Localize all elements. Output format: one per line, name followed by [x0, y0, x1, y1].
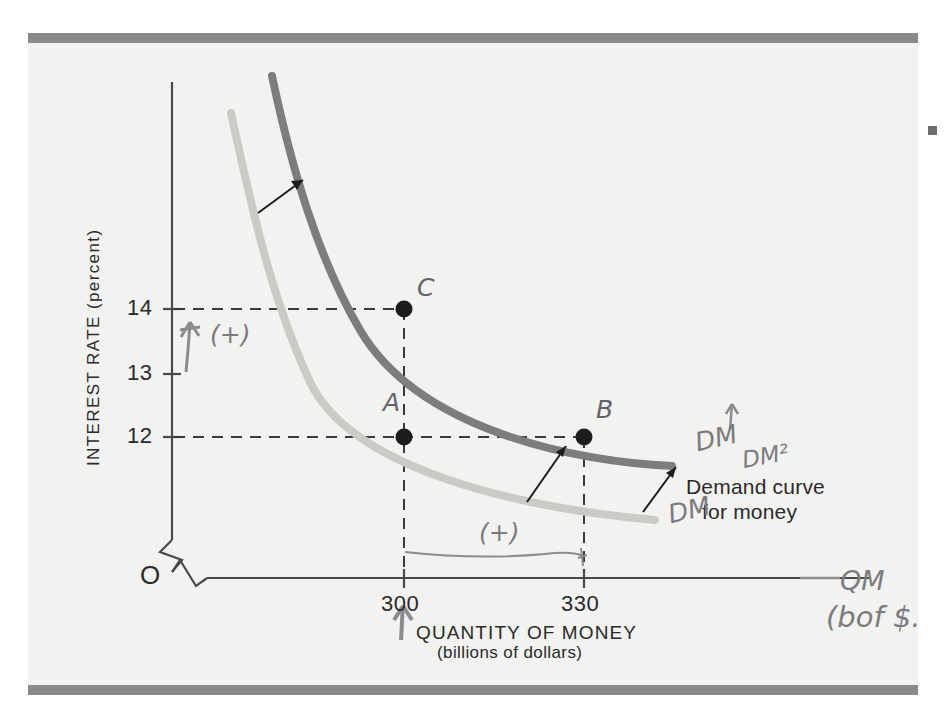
demand-curve-caption-line2: for money: [702, 500, 797, 524]
x-axis-break: [172, 560, 207, 586]
origin-label: O: [140, 560, 160, 591]
x-axis-title: QUANTITY OF MONEY: [416, 622, 637, 644]
handwritten-bracket-tick: [578, 548, 587, 566]
handwritten-plus-interest: (+): [210, 320, 250, 349]
handwritten-bracket: [405, 552, 583, 556]
handwritten-label-bof: (bof $.: [826, 600, 921, 634]
data-point-a: [396, 429, 413, 446]
y-tick-label-12: 12: [127, 423, 152, 449]
x-tick-label-300: 300: [381, 591, 419, 617]
handwritten-arrow-interest: [180, 322, 200, 372]
point-label-b: B: [596, 395, 613, 424]
handwritten-label-qm: QM: [840, 565, 885, 596]
data-point-c: [396, 301, 413, 318]
y-axis-title: INTEREST RATE (percent): [84, 228, 104, 466]
chart-plot-area: [0, 0, 945, 715]
point-label-a: A: [383, 388, 400, 417]
y-tick-label-14: 14: [127, 295, 152, 321]
handwritten-plus-quantity: (+): [479, 518, 519, 547]
textbook-figure: 14 13 12 INTEREST RATE (percent) 300 330…: [0, 0, 945, 715]
x-axis-subtitle: (billions of dollars): [437, 643, 582, 663]
x-tick-label-330: 330: [561, 591, 599, 617]
y-axis-break: [160, 540, 182, 572]
y-tick-label-13: 13: [127, 360, 152, 386]
shift-arrow-middle: [527, 446, 566, 502]
data-point-b: [576, 429, 593, 446]
shift-arrow-upper: [258, 180, 303, 213]
point-label-c: C: [417, 273, 434, 302]
